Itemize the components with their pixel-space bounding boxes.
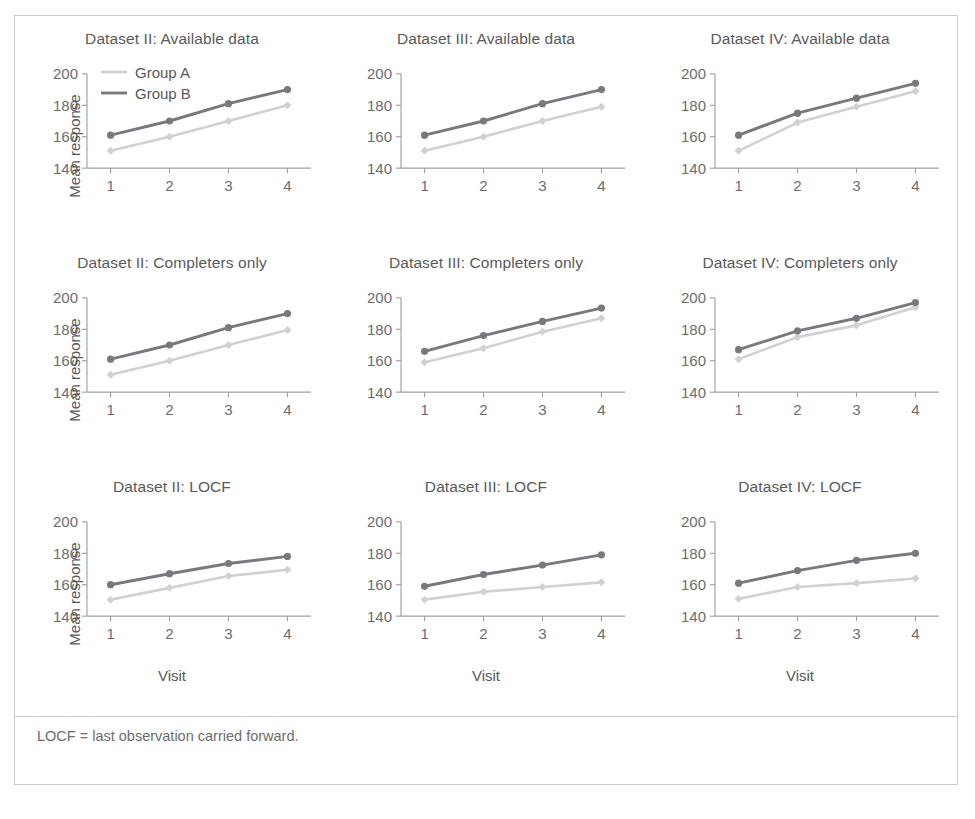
data-point-marker — [598, 86, 605, 93]
plot-area: Mean responseVisit1401601802001234 — [15, 500, 329, 688]
y-tick-label: 200 — [53, 289, 78, 306]
data-point-marker — [539, 100, 546, 107]
x-tick-label: 3 — [224, 625, 232, 642]
plot-area: Visit1401601802001234 — [329, 500, 643, 688]
chart-panel: Dataset III: Available data1401601802001… — [329, 16, 643, 240]
page-bleed-artifact — [0, 0, 975, 10]
data-point-marker — [912, 299, 919, 306]
y-tick-label: 140 — [681, 160, 706, 177]
chart-panel: Dataset II: Available dataMean response1… — [15, 16, 329, 240]
line-chart: 1401601802001234 — [643, 52, 957, 240]
line-chart: 1401601802001234 — [643, 500, 957, 688]
y-tick-label: 200 — [367, 289, 392, 306]
data-point-marker — [107, 147, 115, 155]
data-point-marker — [794, 327, 801, 334]
data-point-marker — [480, 344, 488, 352]
series-line-group-b — [739, 553, 916, 583]
legend-label-group-b: Group B — [135, 85, 191, 102]
figure-footnote: LOCF = last observation carried forward. — [37, 728, 299, 744]
data-point-marker — [225, 100, 232, 107]
data-point-marker — [538, 328, 546, 336]
data-point-marker — [597, 314, 605, 322]
panel-title: Dataset IV: Completers only — [643, 254, 957, 272]
panel-grid: Dataset II: Available dataMean response1… — [15, 16, 957, 688]
line-chart: 1401601802001234 — [329, 52, 643, 240]
x-tick-label: 3 — [852, 625, 860, 642]
chart-panel: Dataset III: Completers only140160180200… — [329, 240, 643, 464]
data-point-marker — [166, 117, 173, 124]
x-tick-label: 4 — [911, 401, 919, 418]
y-tick-label: 180 — [681, 545, 706, 562]
series-line-group-a — [739, 578, 916, 598]
data-point-marker — [538, 117, 546, 125]
data-point-marker — [284, 310, 291, 317]
x-tick-label: 4 — [911, 625, 919, 642]
chart-panel: Dataset II: LOCFMean responseVisit140160… — [15, 464, 329, 688]
data-point-marker — [480, 571, 487, 578]
data-point-marker — [421, 583, 428, 590]
data-point-marker — [794, 119, 802, 127]
data-point-marker — [224, 341, 232, 349]
panel-title: Dataset III: LOCF — [329, 478, 643, 496]
y-tick-label: 180 — [367, 545, 392, 562]
y-tick-label: 160 — [681, 576, 706, 593]
x-tick-label: 1 — [106, 401, 114, 418]
data-point-marker — [421, 358, 429, 366]
series-line-group-a — [425, 582, 602, 599]
legend-label-group-a: Group A — [135, 64, 190, 81]
y-tick-label: 200 — [53, 65, 78, 82]
data-point-marker — [107, 371, 115, 379]
data-point-marker — [225, 560, 232, 567]
plot-area: 1401601802001234 — [329, 52, 643, 240]
data-point-marker — [480, 588, 488, 596]
x-tick-label: 4 — [597, 625, 605, 642]
data-point-marker — [539, 561, 546, 568]
data-point-marker — [598, 304, 605, 311]
data-point-marker — [480, 117, 487, 124]
x-axis-label: Visit — [15, 667, 329, 684]
data-point-marker — [597, 103, 605, 111]
data-point-marker — [794, 567, 801, 574]
data-point-marker — [107, 581, 114, 588]
figure-frame: Dataset II: Available dataMean response1… — [14, 15, 958, 785]
plot-area: 1401601802001234 — [643, 276, 957, 464]
data-point-marker — [911, 574, 919, 582]
panel-title: Dataset III: Completers only — [329, 254, 643, 272]
data-point-marker — [283, 326, 291, 334]
x-tick-label: 4 — [597, 401, 605, 418]
x-tick-label: 3 — [224, 177, 232, 194]
line-chart: 1401601802001234 — [643, 276, 957, 464]
line-chart: 1401601802001234 — [329, 276, 643, 464]
y-tick-label: 180 — [681, 321, 706, 338]
x-axis-label: Visit — [643, 667, 957, 684]
series-line-group-a — [739, 307, 916, 359]
chart-panel: Dataset III: LOCFVisit1401601802001234 — [329, 464, 643, 688]
y-tick-label: 160 — [681, 128, 706, 145]
x-tick-label: 3 — [538, 177, 546, 194]
series-line-group-a — [111, 570, 288, 600]
data-point-marker — [225, 324, 232, 331]
y-tick-label: 200 — [53, 513, 78, 530]
x-tick-label: 1 — [420, 625, 428, 642]
data-point-marker — [421, 596, 429, 604]
panel-title: Dataset IV: LOCF — [643, 478, 957, 496]
series-line-group-a — [739, 91, 916, 151]
x-tick-label: 2 — [165, 401, 173, 418]
y-tick-label: 200 — [681, 513, 706, 530]
data-point-marker — [480, 332, 487, 339]
series-line-group-b — [111, 556, 288, 584]
data-point-marker — [853, 95, 860, 102]
series-line-group-b — [425, 308, 602, 351]
x-tick-label: 1 — [734, 625, 742, 642]
x-tick-label: 3 — [852, 401, 860, 418]
data-point-marker — [598, 551, 605, 558]
x-tick-label: 3 — [538, 401, 546, 418]
data-point-marker — [852, 103, 860, 111]
y-tick-label: 200 — [681, 289, 706, 306]
data-point-marker — [166, 133, 174, 141]
x-tick-label: 4 — [597, 177, 605, 194]
plot-area: 1401601802001234 — [643, 52, 957, 240]
y-tick-label: 160 — [367, 128, 392, 145]
series-line-group-b — [739, 83, 916, 135]
data-point-marker — [794, 583, 802, 591]
